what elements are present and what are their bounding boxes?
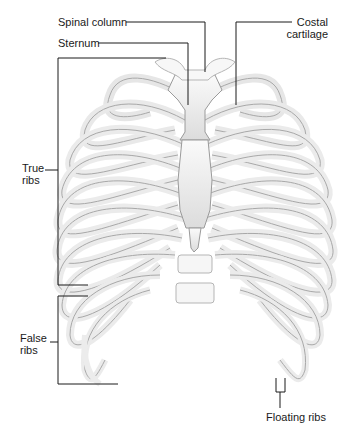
costal-cartilage-line2: cartilage [280, 28, 328, 40]
costal-cartilage-line1: Costal [288, 16, 328, 28]
false-ribs-line1: False [20, 332, 47, 344]
true-ribs-line2: ribs [22, 174, 44, 186]
sternum-label: Sternum [58, 37, 100, 49]
rib-cage-illustration [0, 0, 347, 439]
floating-ribs-label: Floating ribs [266, 411, 326, 423]
false-ribs-line2: ribs [20, 344, 47, 356]
upper-vertebrae [155, 58, 235, 80]
floating-ribs-bracket [276, 378, 285, 392]
true-ribs-line1: True [22, 162, 44, 174]
ribs-right [205, 78, 333, 379]
spine-lower [176, 255, 214, 303]
costal-cartilage-label: Costal cartilage [288, 16, 328, 40]
true-ribs-label: True ribs [22, 162, 44, 186]
false-ribs-label: False ribs [20, 332, 47, 356]
ribs-left [57, 78, 185, 384]
spinal-column-label: Spinal column [58, 16, 127, 28]
